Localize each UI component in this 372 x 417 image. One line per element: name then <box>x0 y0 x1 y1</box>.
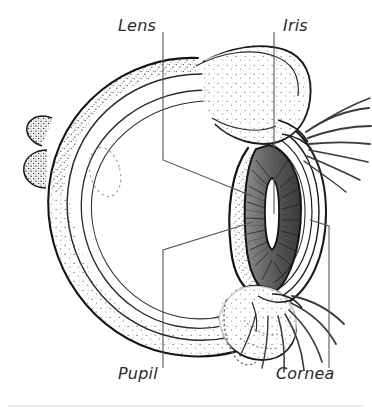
label-cornea: Cornea <box>276 364 335 383</box>
label-iris: Iris <box>283 16 308 35</box>
label-lens: Lens <box>118 16 156 35</box>
label-pupil: Pupil <box>118 364 158 383</box>
eye-anatomy-figure <box>0 0 372 417</box>
pupil <box>265 178 279 250</box>
